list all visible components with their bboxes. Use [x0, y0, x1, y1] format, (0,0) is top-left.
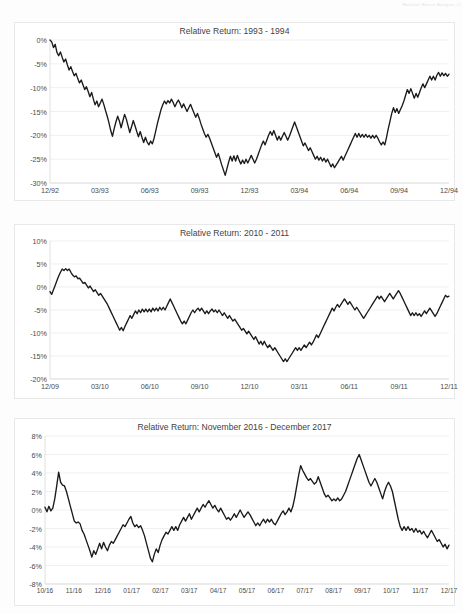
x-axis-tick: 03/17: [181, 587, 198, 594]
chart-svg: [15, 225, 456, 398]
x-axis-tick: 06/93: [141, 186, 159, 195]
x-axis-tick: 12/16: [94, 587, 111, 594]
chart-card-2016-2017: Relative Return: November 2016 - Decembe…: [14, 418, 455, 606]
x-axis-tick: 03/93: [91, 186, 109, 195]
x-axis-tick: 03/94: [290, 186, 308, 195]
plot-area: [15, 419, 454, 605]
x-axis-tick: 06/17: [268, 587, 285, 594]
x-axis-tick: 03/10: [91, 382, 109, 391]
chart-svg: [15, 419, 456, 605]
x-axis-tick: 05/17: [239, 587, 256, 594]
document-page: Relative Return Analysis 32 Relative Ret…: [0, 0, 463, 613]
data-series-line: [50, 269, 449, 362]
x-axis-tick: 10/17: [383, 587, 400, 594]
x-axis-tick: 07/17: [296, 587, 313, 594]
data-series-line: [45, 455, 449, 562]
x-axis-tick: 09/94: [390, 186, 408, 195]
plot-area: [15, 23, 454, 200]
x-axis-tick: 09/11: [390, 382, 407, 391]
x-axis-tick: 12/11: [440, 382, 457, 391]
chart-svg: [15, 23, 456, 200]
x-axis-tick: 06/94: [340, 186, 358, 195]
x-axis-tick: 06/11: [341, 382, 358, 391]
chart-card-1993-1994: Relative Return: 1993 - 1994 0%-5%-10%-1…: [14, 22, 455, 201]
x-axis-tick: 10/16: [37, 587, 54, 594]
x-axis-tick: 12/09: [41, 382, 59, 391]
x-axis-tick: 12/92: [41, 186, 59, 195]
plot-area: [15, 225, 454, 398]
x-axis-tick: 12/17: [441, 587, 458, 594]
page-number: 32: [456, 2, 461, 7]
x-axis-tick: 09/10: [191, 382, 209, 391]
x-axis-tick: 08/17: [325, 587, 342, 594]
chart-card-2010-2011: Relative Return: 2010 - 2011 10%5%0%-5%-…: [14, 224, 455, 399]
x-axis-tick: 12/93: [241, 186, 259, 195]
x-axis-tick: 02/17: [152, 587, 169, 594]
x-axis-tick: 01/17: [123, 587, 140, 594]
x-axis-tick: 03/11: [291, 382, 308, 391]
x-axis-tick: 12/10: [241, 382, 259, 391]
x-axis-tick: 11/17: [412, 587, 428, 594]
page-header-text: Relative Return Analysis: [402, 2, 455, 7]
x-axis-tick: 06/10: [141, 382, 159, 391]
x-axis-tick: 11/16: [66, 587, 82, 594]
data-series-line: [50, 40, 449, 175]
x-axis-tick: 09/93: [191, 186, 209, 195]
x-axis-tick: 09/17: [354, 587, 371, 594]
x-axis-tick: 04/17: [210, 587, 227, 594]
x-axis-tick: 12/94: [440, 186, 458, 195]
